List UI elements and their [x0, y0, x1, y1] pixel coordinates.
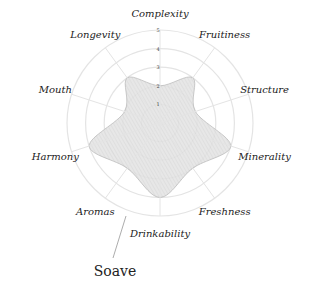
axis-label-drinkability: Drinkability — [129, 228, 190, 239]
radial-tick-label: 3 — [156, 64, 159, 70]
radial-tick-label: 1 — [156, 101, 159, 107]
axis-label-freshness: Freshness — [198, 206, 251, 217]
radial-tick-label: 5 — [156, 27, 159, 33]
radar-spokes — [72, 30, 249, 216]
axis-label-longevity: Longevity — [69, 29, 120, 40]
axis-label-harmony: Harmony — [31, 151, 79, 162]
axis-label-complexity: Complexity — [131, 8, 189, 19]
axis-label-minerality: Minerality — [237, 151, 291, 162]
axis-label-aromas: Aromas — [75, 206, 115, 217]
radar-chart: 12345 ComplexityFruitinessStructureMiner… — [0, 0, 327, 285]
axis-label-fruitiness: Fruitiness — [198, 29, 250, 40]
radial-tick-label: 2 — [156, 83, 159, 89]
chart-title: Soave — [94, 263, 137, 279]
axis-label-structure: Structure — [240, 84, 289, 95]
title-leader-line — [113, 216, 126, 258]
axis-label-mouth: Mouth — [38, 84, 72, 95]
radial-tick-label: 4 — [156, 46, 159, 52]
